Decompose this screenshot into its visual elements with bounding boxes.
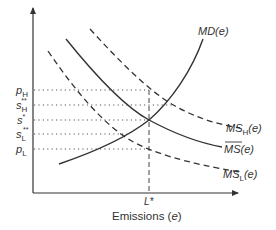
y-label-sL: sL** [16,126,29,143]
curve-ms-low [48,51,240,172]
x-axis-title: Emissions (e) [112,210,182,222]
y-tick-labels: pH sH** s* sL** pL [15,84,29,158]
price-guides [34,90,174,149]
label-ms-bar: MS(e) [224,143,254,155]
label-ms-low: MSL(e) [223,168,258,183]
label-md: MD(e) [198,25,229,37]
curve-md [59,39,203,164]
y-label-sH: sH** [16,97,28,114]
y-label-s-star: s* [17,113,26,126]
x-tick-L-star: L* [144,196,155,207]
emissions-diagram: pH sH** s* sL** pL MD(e) MSH(e) MS(e) MS… [0,0,276,230]
curve-ms-high [90,29,240,128]
label-ms-high: MSH(e) [226,122,262,137]
curve-ms-bar [66,39,222,147]
y-label-pL: pL [15,143,27,158]
